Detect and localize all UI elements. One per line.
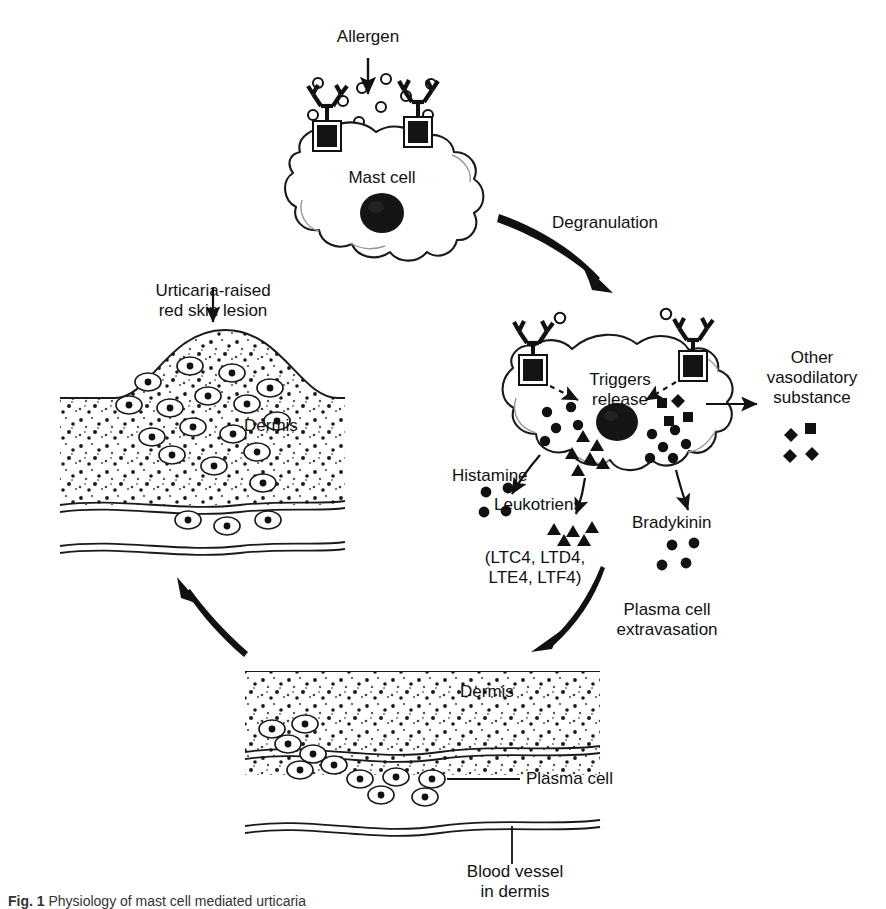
- bound-allergen-right: [661, 309, 671, 319]
- figure-canvas: Allergen Mast cell Degranulation Trigger…: [0, 0, 886, 909]
- blood-vessel-label: Blood vessel in dermis: [440, 862, 590, 902]
- figure-caption-text: Physiology of mast cell mediated urticar…: [48, 893, 306, 909]
- urticaria-skin-section: [60, 288, 345, 555]
- mast-cell-label: Mast cell: [312, 168, 452, 188]
- bradykinin-particles: [657, 538, 700, 571]
- histamine-label: Histamine: [452, 466, 528, 486]
- allergen-label: Allergen: [298, 27, 438, 47]
- urticaria-lesion-label: Urticaria-raised red skin lesion: [123, 281, 303, 321]
- degranulation-label: Degranulation: [552, 213, 658, 233]
- bradykinin-label: Bradykinin: [632, 513, 711, 533]
- bradykinin-arrow: [676, 470, 688, 510]
- leukotriens-particles: [547, 521, 599, 546]
- mast-cell-nucleus: [360, 193, 404, 233]
- triggers-release-label: Triggers release: [560, 370, 680, 410]
- bound-allergen-left: [555, 313, 565, 323]
- other-vasodilatory-label: Other vasodilatory substance: [742, 348, 882, 408]
- plasma-cell-extravasation-label: Plasma cell extravasation: [592, 600, 742, 640]
- recovery-arrow: [177, 577, 248, 657]
- figure-caption-prefix: Fig. 1: [8, 893, 45, 909]
- dermis-skin-section: [245, 672, 600, 864]
- mast-cell-urticaria-diagram: [0, 0, 886, 909]
- ige-receptor-top-left: [308, 85, 347, 151]
- plasma-cell-label: Plasma cell: [526, 769, 613, 789]
- leukotriens-detail-label: (LTC4, LTD4, LTE4, LTF4): [450, 548, 620, 588]
- other-vasodilatory-particles: [783, 423, 819, 463]
- dermis-label-bottom: Dermis: [460, 682, 514, 702]
- dermis-label-top: Dermis: [244, 416, 298, 436]
- leukotriens-label: Leukotriens: [494, 495, 582, 515]
- figure-caption: Fig. 1 Physiology of mast cell mediated …: [8, 893, 306, 909]
